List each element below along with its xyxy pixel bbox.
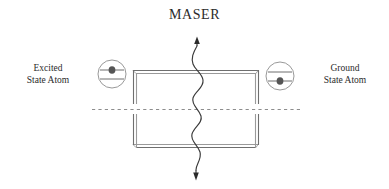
excited-state-atom-icon <box>98 60 126 88</box>
cavity-right-wall-lower <box>256 114 259 148</box>
wave-arrow-down-head <box>193 173 199 181</box>
electron-dot-upper <box>109 66 116 74</box>
diagram-canvas <box>0 0 389 189</box>
photon-wave <box>192 37 203 181</box>
cavity-left-wall-lower <box>134 114 137 148</box>
maser-diagram-figure: MASER Excited State Atom Ground State At… <box>0 0 389 189</box>
cavity-right-wall-upper <box>256 70 259 104</box>
wave-arrow-up-head <box>194 37 200 45</box>
cavity-top-wall <box>133 71 258 74</box>
ground-state-atom-icon <box>266 62 294 90</box>
electron-dot-lower <box>277 77 284 85</box>
cavity-left-wall-upper <box>134 70 137 104</box>
